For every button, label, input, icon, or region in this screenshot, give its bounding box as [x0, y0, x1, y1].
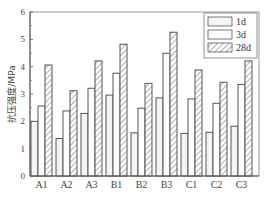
y-tick-label: 1 — [21, 144, 26, 154]
legend-swatch-1d — [208, 17, 232, 26]
x-tick-label: C1 — [186, 179, 198, 190]
bar-C2-28d — [220, 82, 227, 176]
legend-label: 3d — [236, 29, 246, 40]
bar-A1-1d — [31, 121, 38, 176]
y-tick-label: 2 — [21, 116, 26, 126]
bar-B1-1d — [106, 95, 113, 176]
bar-A2-3d — [63, 111, 70, 176]
bar-C2-1d — [206, 132, 213, 176]
bar-B3-1d — [156, 98, 163, 176]
bar-C1-1d — [181, 133, 188, 176]
bar-B2-3d — [138, 108, 145, 176]
x-tick-label: A3 — [85, 179, 97, 190]
legend-label: 1d — [236, 16, 246, 27]
legend-label: 28d — [236, 42, 251, 53]
bar-A2-1d — [56, 139, 63, 176]
x-tick-label: B2 — [136, 179, 148, 190]
bar-B2-28d — [145, 83, 152, 176]
x-tick-label: C3 — [236, 179, 248, 190]
bar-chart: 0123456 A1A2A3B1B2B3C1C2C3 1d3d28d 抗压强度/… — [0, 0, 264, 198]
bar-B3-28d — [170, 32, 177, 176]
x-tick-label: A2 — [60, 179, 72, 190]
bar-A1-3d — [38, 106, 45, 176]
bar-C1-28d — [195, 70, 202, 176]
x-tick-label: B3 — [161, 179, 173, 190]
bar-B1-28d — [120, 44, 127, 176]
bar-A3-1d — [81, 113, 88, 176]
bar-C2-3d — [213, 103, 220, 176]
bar-C3-28d — [245, 61, 252, 176]
x-tick-label: C2 — [211, 179, 223, 190]
bar-C3-3d — [238, 84, 245, 176]
y-axis-label: 抗压强度/MPa — [6, 65, 17, 122]
bar-C3-1d — [231, 126, 238, 176]
bar-B3-3d — [163, 53, 170, 176]
bar-B2-1d — [131, 133, 138, 176]
x-axis: A1A2A3B1B2B3C1C2C3 — [30, 176, 259, 190]
legend: 1d3d28d — [204, 13, 257, 58]
y-tick-label: 0 — [21, 171, 26, 181]
legend-swatch-3d — [208, 30, 232, 39]
bar-A1-28d — [45, 65, 52, 176]
y-tick-label: 3 — [21, 89, 26, 99]
y-tick-label: 6 — [21, 7, 26, 17]
y-tick-label: 5 — [21, 34, 26, 44]
y-tick-label: 4 — [21, 62, 26, 72]
bar-A2-28d — [70, 91, 77, 176]
bar-A3-28d — [95, 61, 102, 176]
bar-B1-3d — [113, 73, 120, 176]
x-tick-label: A1 — [35, 179, 47, 190]
bar-C1-3d — [188, 99, 195, 176]
bar-A3-3d — [88, 88, 95, 176]
x-tick-label: B1 — [111, 179, 123, 190]
legend-swatch-28d — [208, 43, 232, 52]
